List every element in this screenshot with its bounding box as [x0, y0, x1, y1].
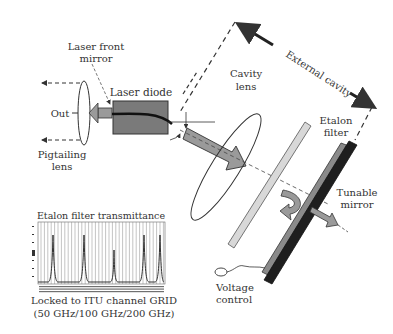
- chart-title: Etalon filter transmittance: [37, 210, 165, 221]
- transmitted-beam-arrow: [310, 207, 348, 232]
- label-cavity-lens: Cavity: [230, 68, 262, 79]
- label-laser-front-mirror-2: mirror: [79, 53, 112, 64]
- label-etalon-filter-2: filter: [324, 127, 349, 138]
- pigtailing-lens: [78, 81, 90, 145]
- label-tunable-mirror-2: mirror: [340, 199, 373, 210]
- label-voltage-control: Voltage: [215, 282, 254, 293]
- label-laser-diode: Laser diode: [110, 86, 173, 98]
- label-voltage-control-2: control: [216, 294, 252, 305]
- voltage-control: [215, 266, 265, 276]
- label-cavity-lens-2: lens: [236, 81, 257, 92]
- label-pigtailing-lens-2: lens: [52, 161, 73, 172]
- output-arrow: [89, 103, 112, 123]
- chart-caption: Locked to ITU channel GRID: [31, 295, 177, 306]
- etalon-transmittance-chart: [32, 222, 165, 292]
- label-external-cavity: External cavity: [284, 48, 354, 99]
- label-laser-front-mirror: Laser front: [68, 41, 125, 52]
- label-out: Out: [51, 108, 70, 119]
- cavity-beam-arrow: [180, 128, 330, 205]
- external-cavity-laser-diagram: Laser front mirror Laser diode Out Pigta…: [0, 0, 393, 334]
- label-tunable-mirror: Tunable: [336, 187, 377, 198]
- chart-caption-2: (50 GHz/100 GHz/200 GHz): [34, 308, 175, 319]
- label-pigtailing-lens: Pigtailing: [38, 149, 87, 160]
- label-etalon-filter: Etalon: [320, 115, 353, 126]
